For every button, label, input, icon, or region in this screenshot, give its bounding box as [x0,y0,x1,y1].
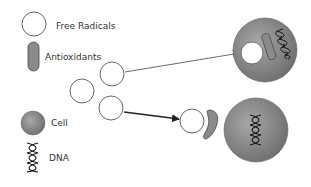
free-radical-circle-icon [22,12,46,36]
legend-label-dna: DNA [49,153,69,163]
free-radical-bottom [99,96,123,120]
arrow-to-damaged-cell [125,53,240,72]
antioxidant-diagram [0,0,311,187]
cell-sphere-icon [21,111,45,135]
legend-label-antioxidants: Antioxidants [45,52,101,62]
damaged-cell [233,18,297,82]
healthy-cell [224,98,288,162]
arrow-to-neutralized-radical [124,112,179,119]
antioxidant-pill-icon [28,42,39,71]
free-radical-top [100,62,124,86]
antioxidant-crescent-icon [204,110,218,139]
legend-label-free-radicals: Free Radicals [56,21,115,31]
neutralization-pair [180,109,218,139]
cell-sphere-icon [224,98,288,162]
legend [21,12,46,172]
free-radical-inside-cell [241,42,263,64]
free-radical-left [70,79,94,103]
dna-helix-icon [27,143,38,172]
free-radical-neutralized [180,109,204,133]
free-radicals-group [70,62,124,120]
legend-label-cell: Cell [51,118,68,128]
